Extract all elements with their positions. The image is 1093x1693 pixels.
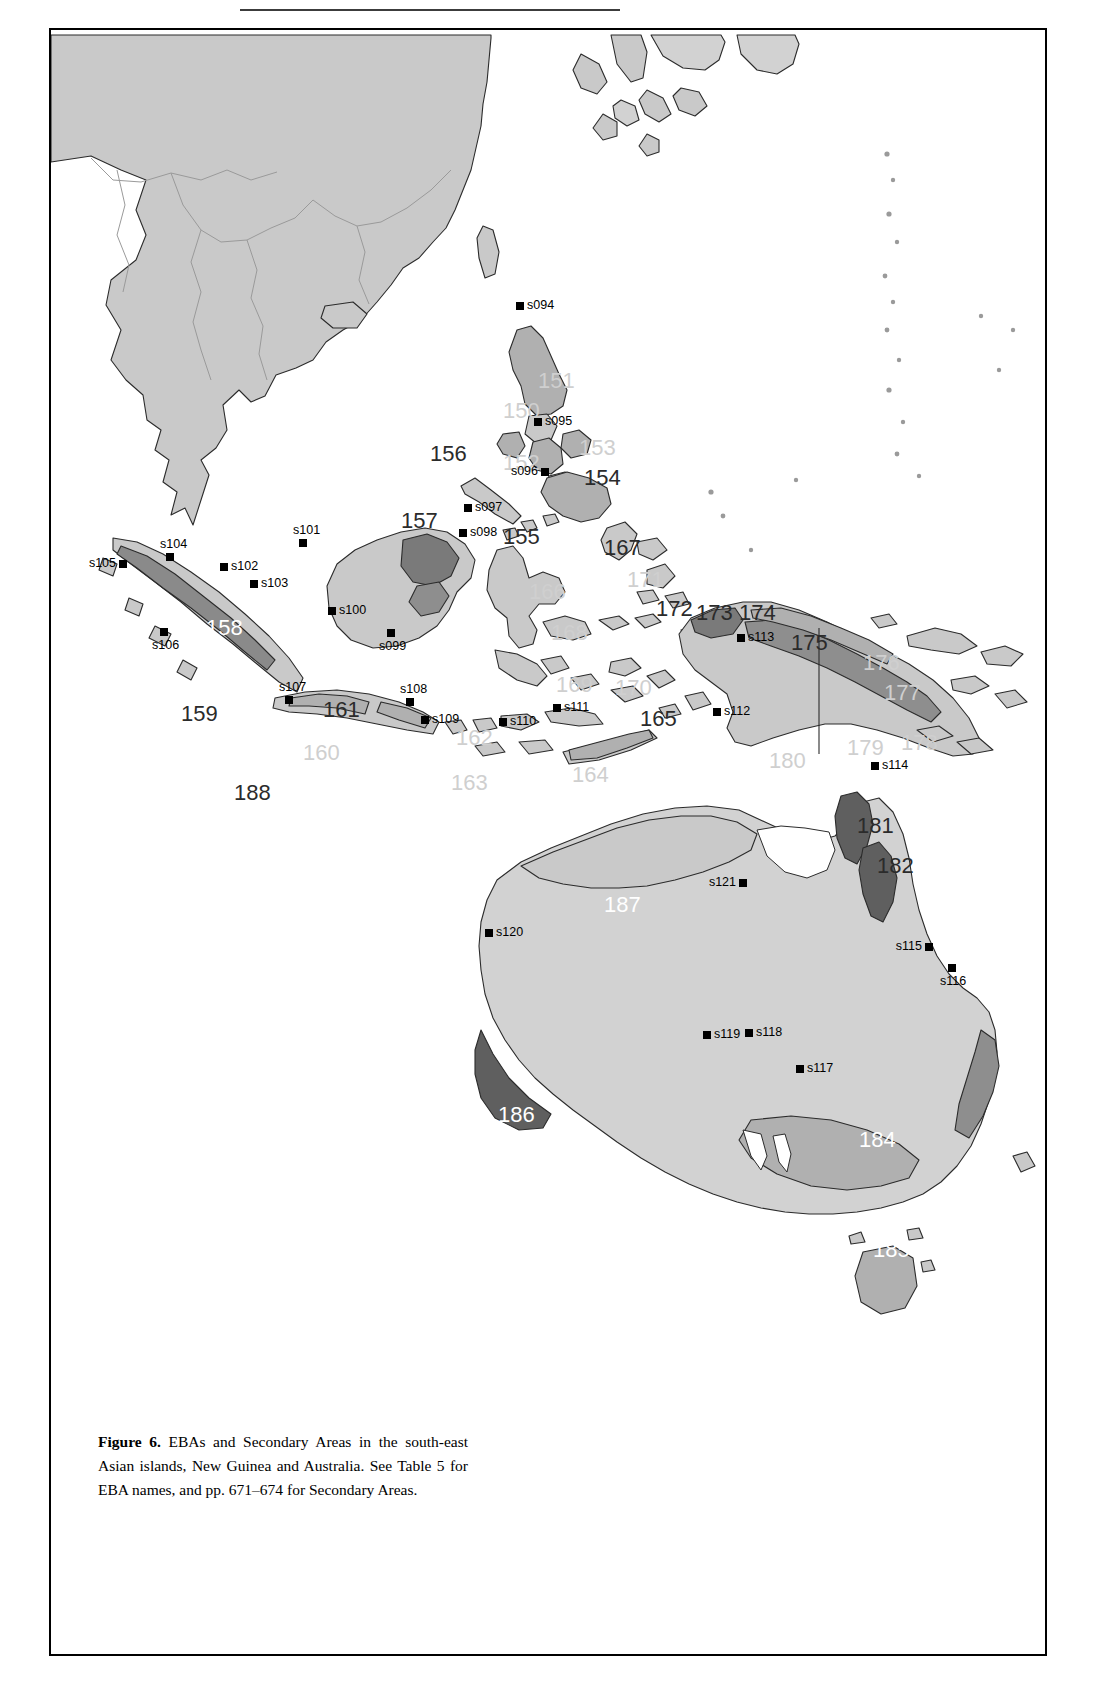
marker-square-icon: [534, 418, 542, 426]
secondary-area-label: s100: [339, 603, 366, 617]
secondary-area-label: s109: [432, 712, 459, 726]
secondary-area-label: s117: [807, 1061, 833, 1075]
eba-label-159: 159: [181, 701, 218, 727]
secondary-area-label: s110: [510, 714, 536, 728]
eba-label-168: 168: [551, 620, 588, 646]
marker-square-icon: [160, 628, 168, 636]
marker-square-icon: [328, 607, 336, 615]
secondary-area-label: s104: [160, 537, 187, 551]
marker-square-icon: [796, 1065, 804, 1073]
marker-square-icon: [119, 560, 127, 568]
secondary-area-label: s116: [940, 974, 966, 988]
eba-label-163: 163: [451, 770, 488, 796]
secondary-area-label: s113: [748, 630, 774, 644]
secondary-area-label: s112: [724, 704, 750, 718]
eba-label-170: 170: [615, 675, 652, 701]
secondary-area-label: s098: [470, 525, 497, 539]
marker-square-icon: [421, 716, 429, 724]
eba-label-186: 186: [498, 1102, 535, 1128]
marker-square-icon: [459, 529, 467, 537]
marker-square-icon: [299, 539, 307, 547]
eba-label-175: 175: [791, 630, 828, 656]
eba-label-180: 180: [769, 748, 806, 774]
eba-label-172: 172: [656, 596, 693, 622]
secondary-area-label: s119: [714, 1027, 740, 1041]
eba-label-157: 157: [401, 508, 438, 534]
secondary-area-label: s121: [709, 875, 736, 889]
eba-label-178: 178: [901, 730, 938, 756]
secondary-area-label: s097: [475, 500, 502, 514]
eba-label-166: 166: [529, 579, 566, 605]
marker-square-icon: [387, 629, 395, 637]
map-canvas: 1501511521531541551561571581591601611621…: [51, 30, 1041, 1410]
figure-page: 1501511521531541551561571581591601611621…: [0, 0, 1093, 1693]
eba-label-188: 188: [234, 780, 271, 806]
marker-square-icon: [703, 1031, 711, 1039]
marker-square-icon: [553, 704, 561, 712]
figure-caption-label: Figure 6.: [98, 1433, 161, 1450]
marker-square-icon: [745, 1029, 753, 1037]
secondary-area-label: s105: [89, 556, 116, 570]
marker-square-icon: [464, 504, 472, 512]
eba-label-169: 169: [556, 672, 593, 698]
marker-square-icon: [925, 943, 933, 951]
eba-label-176: 176: [863, 650, 900, 676]
secondary-area-label: s106: [152, 638, 179, 652]
eba-label-155: 155: [503, 524, 540, 550]
secondary-area-label: s095: [545, 414, 572, 428]
eba-label-151: 151: [538, 368, 575, 394]
eba-label-174: 174: [739, 600, 776, 626]
marker-square-icon: [739, 879, 747, 887]
eba-label-185: 185: [873, 1237, 910, 1263]
secondary-area-label: s108: [400, 682, 427, 696]
marker-square-icon: [713, 708, 721, 716]
secondary-area-label: s103: [261, 576, 288, 590]
eba-label-165: 165: [640, 706, 677, 732]
marker-square-icon: [485, 929, 493, 937]
marker-square-icon: [541, 468, 549, 476]
eba-label-184: 184: [859, 1127, 896, 1153]
marker-square-icon: [516, 302, 524, 310]
eba-label-171: 171: [627, 567, 664, 593]
secondary-area-label: s101: [293, 523, 320, 537]
eba-label-161: 161: [323, 697, 360, 723]
figure-frame: 1501511521531541551561571581591601611621…: [49, 28, 1047, 1656]
eba-label-164: 164: [572, 762, 609, 788]
marker-square-icon: [948, 964, 956, 972]
eba-label-158: 158: [206, 615, 243, 641]
marker-square-icon: [220, 563, 228, 571]
eba-label-167: 167: [604, 535, 641, 561]
marker-square-icon: [737, 634, 745, 642]
page-top-rule: [240, 9, 620, 11]
eba-label-160: 160: [303, 740, 340, 766]
eba-label-187: 187: [604, 892, 641, 918]
secondary-area-label: s120: [496, 925, 523, 939]
marker-square-icon: [285, 696, 293, 704]
secondary-area-label: s114: [882, 758, 908, 772]
eba-label-179: 179: [847, 735, 884, 761]
marker-square-icon: [871, 762, 879, 770]
figure-caption: Figure 6. EBAs and Secondary Areas in th…: [98, 1430, 468, 1502]
secondary-area-label: s096: [511, 464, 538, 478]
secondary-area-label: s099: [379, 639, 406, 653]
marker-square-icon: [406, 698, 414, 706]
secondary-area-label: s102: [231, 559, 258, 573]
marker-square-icon: [499, 718, 507, 726]
eba-label-182: 182: [877, 853, 914, 879]
eba-label-153: 153: [579, 435, 616, 461]
eba-label-162: 162: [456, 725, 493, 751]
secondary-area-label: s115: [896, 939, 922, 953]
eba-label-154: 154: [584, 465, 621, 491]
marker-square-icon: [250, 580, 258, 588]
secondary-area-label: s107: [279, 680, 306, 694]
eba-label-177: 177: [884, 680, 921, 706]
secondary-area-label: s094: [527, 298, 554, 312]
eba-label-173: 173: [696, 600, 733, 626]
marker-square-icon: [166, 553, 174, 561]
secondary-area-label: s118: [756, 1025, 782, 1039]
eba-label-181: 181: [857, 813, 894, 839]
eba-label-156: 156: [430, 441, 467, 467]
secondary-area-label: s111: [564, 700, 589, 714]
